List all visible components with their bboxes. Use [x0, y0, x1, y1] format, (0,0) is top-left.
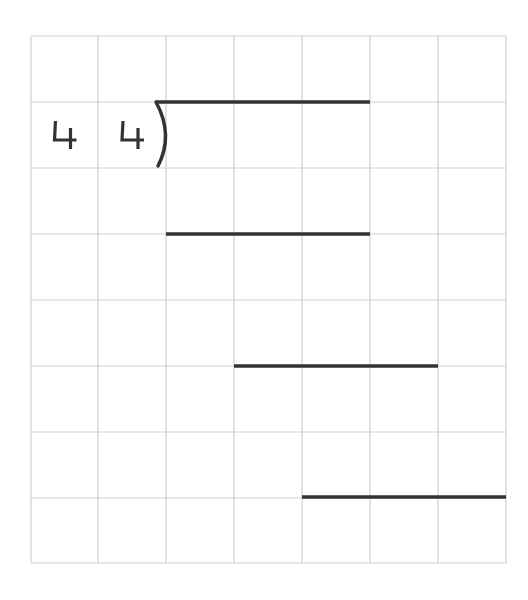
division-bracket	[156, 102, 166, 166]
division-worksheet: 4 4	[0, 0, 528, 600]
grid-lines	[31, 36, 506, 563]
divisor-digit-2	[122, 121, 144, 149]
grid-canvas	[0, 0, 528, 600]
divisor-digit-1	[55, 121, 77, 149]
divisor-digits	[55, 121, 145, 149]
